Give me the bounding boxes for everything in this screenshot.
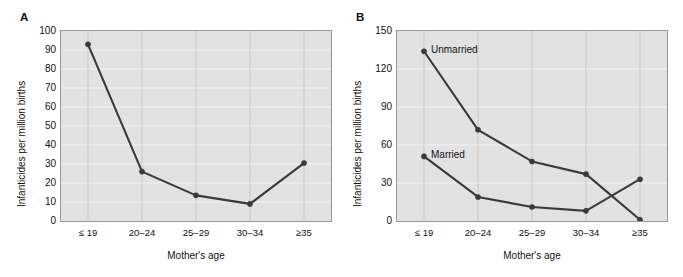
y-tick-label: 150: [375, 26, 392, 36]
x-tick-label: 20–24: [129, 228, 155, 238]
series-label-unmarried: Unmarried: [431, 44, 478, 55]
x-tick-label: ≥35: [632, 228, 648, 238]
y-tick-label: 30: [45, 159, 56, 169]
y-tick-label: 30: [381, 178, 392, 188]
x-tick-label: ≥35: [296, 228, 312, 238]
panel-b: B Infanticides per million births 030609…: [341, 0, 683, 277]
y-tick-label: 40: [45, 140, 56, 150]
y-tick-label: 60: [45, 102, 56, 112]
x-tick-label: 30–34: [237, 228, 263, 238]
y-tick-label: 10: [45, 197, 56, 207]
y-tick-label: 90: [381, 102, 392, 112]
y-tick-label: 50: [45, 121, 56, 131]
y-tick-label: 120: [375, 64, 392, 74]
series-label-married: Married: [431, 149, 465, 160]
panel-a-plot-area: [60, 30, 332, 222]
x-tick-label: 25–29: [519, 228, 545, 238]
panel-a: A Infanticides per million births 010203…: [0, 0, 341, 277]
x-tick-label: 25–29: [183, 228, 209, 238]
panel-a-x-axis-title: Mother's age: [167, 250, 225, 261]
y-tick-label: 100: [39, 26, 56, 36]
x-tick-label: ≤ 19: [79, 228, 97, 238]
panel-b-svg: [397, 31, 667, 221]
panel-b-y-tick-labels: 0306090120150: [362, 30, 392, 222]
x-tick-label: ≤ 19: [415, 228, 433, 238]
panel-b-x-axis-title: Mother's age: [503, 250, 561, 261]
panel-b-plot-area: Unmarried Married: [396, 30, 668, 222]
figure-container: A Infanticides per million births 010203…: [0, 0, 683, 277]
y-tick-label: 60: [381, 140, 392, 150]
y-tick-label: 0: [50, 216, 56, 226]
panel-a-svg: [61, 31, 331, 221]
panel-a-y-tick-labels: 0102030405060708090100: [26, 30, 56, 222]
y-tick-label: 70: [45, 83, 56, 93]
panel-b-letter: B: [356, 11, 365, 23]
y-tick-label: 90: [45, 45, 56, 55]
y-tick-label: 80: [45, 64, 56, 74]
panel-a-letter: A: [20, 11, 29, 23]
y-tick-label: 0: [386, 216, 392, 226]
y-tick-label: 20: [45, 178, 56, 188]
x-tick-label: 20–24: [465, 228, 491, 238]
x-tick-label: 30–34: [573, 228, 599, 238]
